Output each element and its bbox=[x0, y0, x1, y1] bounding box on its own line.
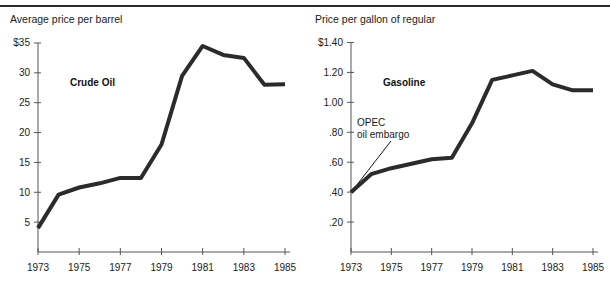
top-rule-divider bbox=[0, 5, 610, 7]
y-tick-label: 25 bbox=[19, 97, 31, 108]
x-tick-label: 1977 bbox=[421, 262, 444, 273]
plot-area-crude-oil: 51015202530$35 1973197519771979198119831… bbox=[0, 10, 305, 290]
x-tick-label: 1981 bbox=[501, 262, 524, 273]
data-line-gasoline bbox=[351, 71, 593, 192]
panel-crude-oil: Average price per barrel Crude Oil 51015… bbox=[0, 10, 305, 290]
y-tick-label: 30 bbox=[19, 67, 31, 78]
x-tick-label: 1983 bbox=[542, 262, 565, 273]
y-tick-label: $1.40 bbox=[318, 37, 343, 48]
x-tick-label: 1985 bbox=[582, 262, 605, 273]
y-tick-label: .20 bbox=[329, 217, 343, 228]
x-tick-label: 1973 bbox=[27, 262, 50, 273]
data-line-crude-oil bbox=[38, 46, 285, 228]
panel-gasoline: Price per gallon of regular Gasoline OPE… bbox=[305, 10, 610, 290]
x-tick-label: 1977 bbox=[109, 262, 132, 273]
y-tick-label: .40 bbox=[329, 187, 343, 198]
x-tick-label: 1983 bbox=[233, 262, 256, 273]
y-tick-label: .80 bbox=[329, 127, 343, 138]
y-tick-label: 1.20 bbox=[324, 67, 344, 78]
plot-area-gasoline: .20.40.60.801.001.20$1.40 19731975197719… bbox=[305, 10, 610, 290]
y-tick-label: $35 bbox=[13, 37, 30, 48]
y-tick-group-gasoline: .20.40.60.801.001.20$1.40 bbox=[318, 37, 354, 228]
x-tick-label: 1985 bbox=[274, 262, 297, 273]
x-tick-label: 1975 bbox=[68, 262, 91, 273]
y-tick-label: 10 bbox=[19, 187, 31, 198]
y-tick-label: 1.00 bbox=[324, 97, 344, 108]
x-tick-label: 1979 bbox=[461, 262, 484, 273]
y-tick-label: 20 bbox=[19, 127, 31, 138]
y-tick-group-crude-oil: 51015202530$35 bbox=[13, 37, 41, 227]
y-tick-label: 15 bbox=[19, 157, 31, 168]
x-tick-label: 1975 bbox=[380, 262, 403, 273]
y-tick-label: 5 bbox=[24, 217, 30, 228]
x-tick-label: 1981 bbox=[192, 262, 215, 273]
x-tick-label: 1973 bbox=[340, 262, 363, 273]
x-tick-label: 1979 bbox=[150, 262, 173, 273]
two-panel-line-chart-figure: Average price per barrel Crude Oil 51015… bbox=[0, 0, 610, 290]
y-tick-label: .60 bbox=[329, 157, 343, 168]
